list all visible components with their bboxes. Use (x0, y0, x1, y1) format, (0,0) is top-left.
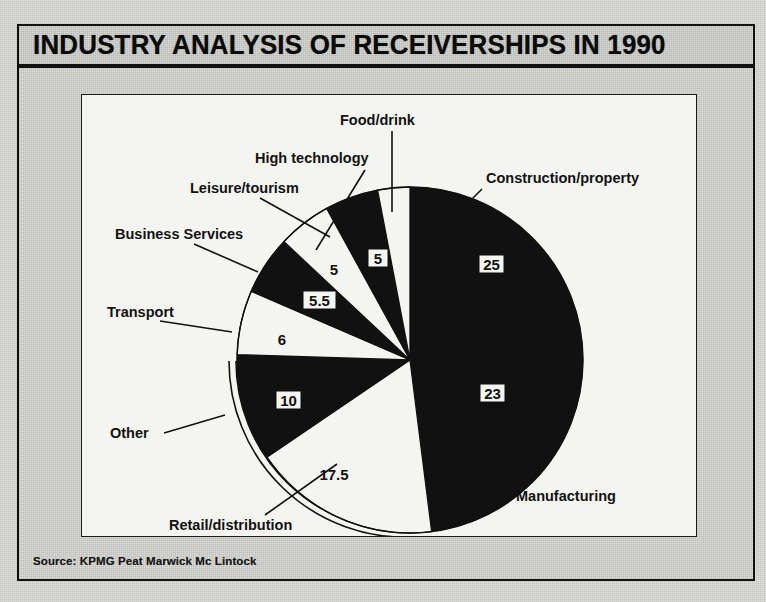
value-leisure-tourism: 5 (330, 261, 338, 278)
label-food-drink: Food/drink (340, 112, 416, 128)
source-note: Source: KPMG Peat Marwick Mc Lintock (33, 555, 256, 567)
label-leisure-tourism: Leisure/tourism (190, 180, 299, 196)
leader-transport (160, 321, 232, 332)
value-construction-property: 25 (483, 256, 500, 273)
title-banner: INDUSTRY ANALYSIS OF RECEIVERSHIPS IN 19… (19, 26, 753, 68)
label-manufacturing: Manufacturing (516, 488, 616, 504)
chart-frame: INDUSTRY ANALYSIS OF RECEIVERSHIPS IN 19… (17, 24, 755, 581)
pie-chart: Food/drinkHigh technologyLeisure/tourism… (82, 95, 697, 537)
leader-business-services (194, 244, 258, 272)
value-high-technology: 5 (374, 250, 382, 267)
label-retail-distribution: Retail/distribution (169, 517, 292, 533)
value-other: 10 (280, 392, 297, 409)
label-other: Other (110, 425, 149, 441)
value-retail-distribution: 17.5 (319, 466, 348, 483)
page-title: INDUSTRY ANALYSIS OF RECEIVERSHIPS IN 19… (33, 32, 666, 59)
value-business-services: 5.5 (309, 292, 330, 309)
value-transport: 6 (278, 331, 286, 348)
leader-other (164, 415, 225, 433)
label-transport: Transport (107, 304, 174, 320)
label-high-technology: High technology (255, 150, 369, 166)
value-manufacturing: 23 (484, 385, 501, 402)
value-food-drink: 3 (395, 244, 403, 261)
label-business-services: Business Services (115, 226, 243, 242)
label-construction-property: Construction/property (486, 170, 639, 186)
pie-chart-panel: Food/drinkHigh technologyLeisure/tourism… (81, 94, 697, 537)
